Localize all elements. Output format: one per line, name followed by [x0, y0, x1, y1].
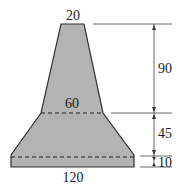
label-upper-height: 90 [158, 61, 172, 76]
arrow-up-icon [152, 114, 156, 119]
arrow-down-icon [152, 107, 156, 112]
label-base-height: 10 [158, 155, 172, 170]
arrow-down-icon [152, 157, 156, 160]
cross-section-diagram: 20 60 120 90 45 10 [0, 0, 183, 189]
arrow-up-icon [152, 163, 156, 166]
label-bottom-width: 120 [63, 170, 84, 185]
arrow-up-icon [152, 25, 156, 30]
label-middle-height: 45 [158, 126, 172, 141]
label-middle-width: 60 [65, 96, 79, 111]
label-top-width: 20 [66, 8, 80, 23]
arrow-down-icon [152, 150, 156, 155]
